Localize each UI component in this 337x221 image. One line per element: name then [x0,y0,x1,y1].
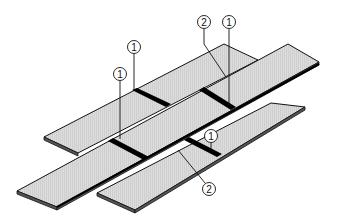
svg-text:2: 2 [206,184,212,195]
svg-text:1: 1 [208,131,214,142]
svg-text:1: 1 [226,17,232,28]
callout-1b: 1 [114,68,127,81]
callout-1d: 1 [205,130,218,143]
callout-2b: 2 [203,183,216,196]
plank-joint-diagram: 1 1 2 1 1 2 [0,0,337,221]
svg-text:1: 1 [117,69,123,80]
svg-text:2: 2 [201,17,207,28]
svg-text:1: 1 [131,42,137,53]
callout-2a: 2 [198,16,211,29]
callout-1c: 1 [223,16,236,29]
callout-1a: 1 [128,41,141,54]
